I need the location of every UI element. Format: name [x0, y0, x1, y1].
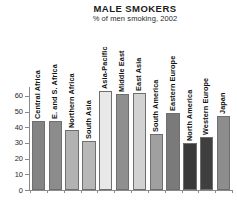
- bar-group[interactable]: Middle East: [116, 88, 129, 190]
- x-axis-tick: [114, 190, 115, 193]
- x-axis-tick: [165, 190, 166, 193]
- y-axis-tick-label: 20: [4, 155, 23, 162]
- x-axis-tick: [47, 190, 48, 193]
- plot-area: Central AfricaE. and S. AfricaNorthern A…: [30, 88, 232, 190]
- bar-category-label: Central Africa: [34, 70, 41, 119]
- bar[interactable]: [116, 94, 129, 190]
- x-axis-tick: [198, 190, 199, 193]
- chart-subtitle: % of men smoking, 2002: [0, 14, 232, 24]
- bar-group[interactable]: Northern Africa: [65, 88, 78, 190]
- x-axis-tick: [97, 190, 98, 193]
- bar-category-label: Western Europe: [202, 77, 209, 134]
- bar[interactable]: [166, 113, 179, 190]
- bar[interactable]: [99, 91, 112, 190]
- bar-group[interactable]: Western Europe: [200, 88, 213, 190]
- bar[interactable]: [183, 143, 196, 190]
- bar-category-label: South Asia: [85, 101, 92, 140]
- bar-category-label: North America: [186, 90, 193, 141]
- y-axis-tick-label: 0: [4, 187, 23, 194]
- bar-category-label: Asia-Pacific: [101, 47, 108, 90]
- chart-header: MALE SMOKERS % of men smoking, 2002: [0, 3, 232, 24]
- y-axis-tick-label: 50: [4, 108, 23, 115]
- bar-group[interactable]: E. and S. Africa: [49, 88, 62, 190]
- bar-group[interactable]: Japan: [217, 88, 230, 190]
- bar[interactable]: [217, 116, 230, 190]
- bar[interactable]: [200, 137, 213, 190]
- bar-category-label: Northern Africa: [68, 74, 75, 129]
- bar[interactable]: [32, 121, 45, 190]
- bar-category-label: South America: [152, 79, 159, 132]
- x-axis-tick: [131, 190, 132, 193]
- bar-group[interactable]: North America: [183, 88, 196, 190]
- bar-group[interactable]: Central Africa: [32, 88, 45, 190]
- chart-container: MALE SMOKERS % of men smoking, 2002 0102…: [0, 0, 237, 203]
- bar-category-label: Eastern Europe: [169, 56, 176, 111]
- bar-group[interactable]: South America: [150, 88, 163, 190]
- bar[interactable]: [65, 130, 78, 190]
- y-axis-tick-label: 30: [4, 139, 23, 146]
- bar-group[interactable]: Asia-Pacific: [99, 88, 112, 190]
- x-axis-tick: [182, 190, 183, 193]
- x-axis-tick: [30, 190, 31, 193]
- x-axis-tick: [215, 190, 216, 193]
- bar[interactable]: [49, 121, 62, 190]
- y-axis-tick-label: 10: [4, 171, 23, 178]
- x-axis-tick: [64, 190, 65, 193]
- bar-category-label: E. and S. Africa: [51, 64, 58, 119]
- y-axis-tick-label: 40: [4, 124, 23, 131]
- y-axis-tick-label: 60: [4, 92, 23, 99]
- bar-group[interactable]: East Asia: [133, 88, 146, 190]
- bar-category-label: Middle East: [118, 51, 125, 93]
- x-axis-tick: [81, 190, 82, 193]
- x-axis-tick: [148, 190, 149, 193]
- bar[interactable]: [150, 134, 163, 190]
- chart-title: MALE SMOKERS: [0, 3, 232, 14]
- bar-group[interactable]: Eastern Europe: [166, 88, 179, 190]
- bar-category-label: Japan: [219, 93, 226, 115]
- bar-category-label: East Asia: [135, 57, 142, 90]
- bar[interactable]: [82, 141, 95, 190]
- bar-group[interactable]: South Asia: [82, 88, 95, 190]
- x-axis-tick: [232, 190, 233, 193]
- bar[interactable]: [133, 93, 146, 190]
